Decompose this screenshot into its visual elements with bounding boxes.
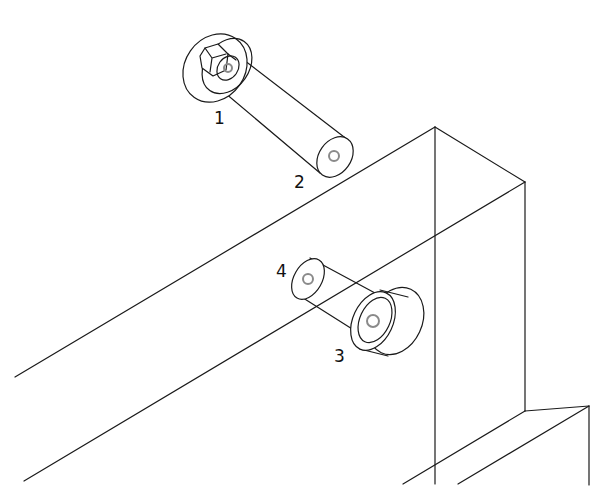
nut-washer-1 — [170, 21, 262, 114]
assembly-diagram: 1 2 3 4 — [0, 0, 609, 491]
label-4: 4 — [276, 261, 287, 281]
label-1: 1 — [214, 108, 225, 128]
pin-end-4 — [285, 253, 331, 305]
label-2: 2 — [294, 172, 305, 192]
label-3: 3 — [334, 346, 345, 366]
bushing-3 — [342, 278, 435, 363]
